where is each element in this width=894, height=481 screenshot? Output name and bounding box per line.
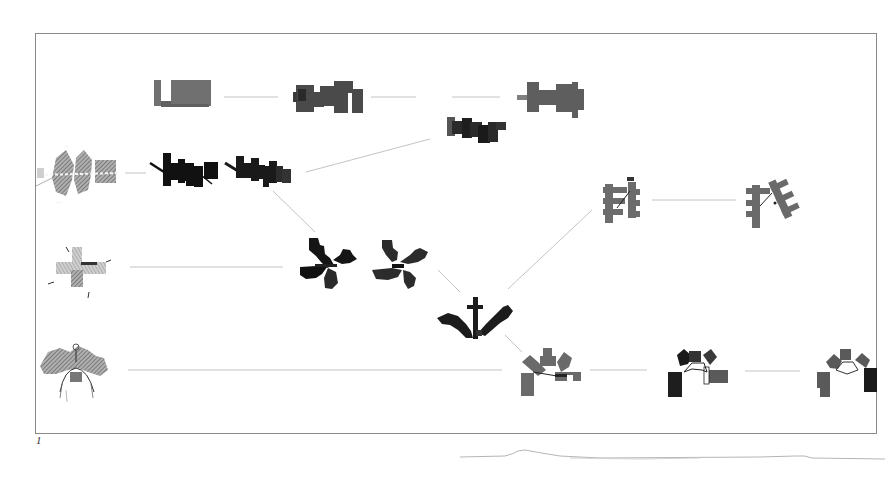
plan-row2-d	[746, 175, 801, 228]
svg-text:· ··: · ··	[64, 145, 68, 149]
plan-row1-c	[517, 82, 584, 118]
plan-row2-sketch: · ·· ·· ···	[36, 145, 118, 205]
plan-row3-c	[437, 297, 513, 339]
plan-row3-sketch	[48, 247, 111, 298]
figure-number: 1	[36, 434, 42, 446]
edge-row3-b-c	[438, 270, 460, 292]
edge-row2-b-row3-a	[273, 191, 315, 232]
plan-row4-sketch	[40, 344, 108, 402]
plan-row4-c	[817, 349, 877, 397]
plan-row4-b	[668, 349, 728, 397]
plan-row4-a	[521, 348, 581, 396]
plan-row3-b	[372, 240, 428, 289]
plan-row1-a	[154, 80, 211, 107]
plan-row2-a	[150, 153, 218, 187]
svg-text:·· ···: ·· ···	[56, 201, 62, 205]
edge-row2-b-row1-d	[306, 139, 430, 172]
ground-line	[460, 450, 885, 459]
plan-row3-a	[300, 238, 357, 289]
plan-row1-d	[447, 117, 506, 143]
plan-row1-b	[293, 81, 363, 113]
edge-row3-c-row4-a	[505, 335, 522, 352]
plan-row2-b	[225, 156, 291, 187]
diagram-canvas: · ·· ·· ···	[0, 0, 894, 481]
plan-row2-c	[603, 177, 640, 223]
edge-row3-c-row2-c	[508, 210, 592, 289]
